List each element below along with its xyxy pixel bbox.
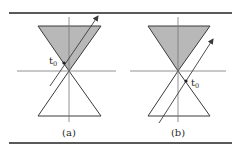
event-label-b: t0 [191,77,199,90]
panel-b: t0 (b) [130,17,226,138]
future-cone-a [38,26,101,71]
caption-a: (a) [62,127,76,138]
panel-a: t0 (a) [17,16,116,138]
past-cone-a [38,71,101,116]
future-cone-b [148,26,210,71]
event-label-a: t0 [49,55,57,68]
caption-b: (b) [171,127,185,138]
light-cone-figure: t0 (a) t0 (b) [0,0,241,150]
event-dot-b [184,79,187,82]
event-dot-a [62,61,65,64]
past-cone-b [148,71,210,116]
